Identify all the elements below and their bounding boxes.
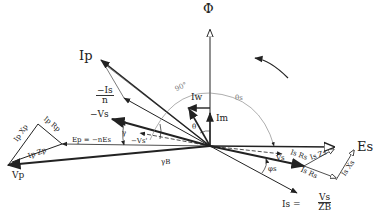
- im-label: Im: [216, 114, 228, 123]
- iw-label: Iw: [191, 93, 202, 102]
- gamma-b-label: γB: [161, 159, 170, 166]
- minus-vs-prime-label: −Vs': [131, 138, 147, 145]
- phi-label: Φ: [203, 2, 214, 15]
- vs-label: Vs: [276, 155, 285, 162]
- ip-label: Ip: [79, 49, 92, 62]
- phasor-diagram: [0, 0, 379, 217]
- angle-theta-label: θ: [192, 124, 196, 131]
- is-eq-fraction: Vs ZB: [318, 193, 331, 212]
- ep-label: Ep = −nEs: [72, 137, 111, 144]
- phi-s-label: φs: [268, 166, 277, 173]
- minus-vs-label: −Vs: [90, 110, 109, 119]
- vp-label: Vp: [12, 171, 24, 180]
- minus-is-n-label: −Is n: [96, 86, 114, 105]
- gamma-label: γ: [122, 130, 126, 137]
- es-label: Es: [357, 140, 373, 153]
- es-phasor: [210, 146, 334, 147]
- angle-theta-s-label: θs: [235, 95, 243, 102]
- is-eq-label: Is =: [282, 200, 301, 209]
